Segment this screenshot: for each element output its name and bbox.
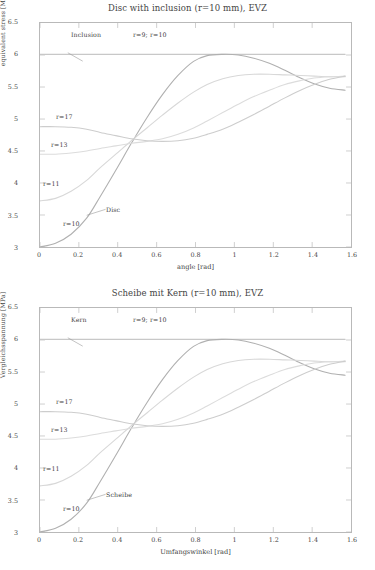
annotation-r10: r=10 bbox=[63, 220, 80, 227]
annotation-r9-r10: r=9; r=10 bbox=[133, 31, 167, 38]
annotation-r11: r=11 bbox=[43, 465, 60, 472]
chart-title: Scheibe mit Kern (r=10 mm), EVZ bbox=[0, 288, 375, 298]
leader-lines bbox=[68, 53, 106, 216]
x-tick-label: 0.6 bbox=[136, 251, 176, 259]
x-tick-label: 1 bbox=[215, 251, 255, 259]
annotation-inclusion: Inclusion bbox=[71, 31, 101, 38]
tick-marks bbox=[40, 23, 351, 247]
tick-marks bbox=[40, 308, 351, 532]
x-tick-label: 1.6 bbox=[332, 536, 372, 544]
x-tick-label: 0.8 bbox=[176, 536, 216, 544]
series-paths bbox=[40, 54, 345, 247]
annotation-r13: r=13 bbox=[51, 426, 68, 433]
x-tick-label: 1.4 bbox=[293, 251, 333, 259]
annotation-body: Disc bbox=[106, 206, 120, 213]
x-tick-label: 1.6 bbox=[332, 251, 372, 259]
curve-r-13 bbox=[40, 361, 345, 439]
y-tick-label: 5.5 bbox=[0, 368, 18, 376]
y-tick-label: 4 bbox=[0, 464, 18, 472]
y-tick-label: 3.5 bbox=[0, 212, 18, 220]
plot-area bbox=[39, 22, 352, 248]
x-tick-label: 0.6 bbox=[136, 536, 176, 544]
x-axis-label: Umfangswinkel [rad] bbox=[39, 548, 352, 556]
figure-scheibe-mit-kern: Scheibe mit Kern (r=10 mm), EVZ Vergleic… bbox=[0, 285, 375, 570]
curves-svg bbox=[40, 308, 351, 532]
x-axis-label: angle [rad] bbox=[39, 263, 352, 271]
x-tick-label: 1.4 bbox=[293, 536, 333, 544]
plot-area bbox=[39, 307, 352, 533]
annotation-body: Scheibe bbox=[106, 491, 132, 498]
curve-r-11 bbox=[40, 74, 345, 201]
y-tick-label: 5 bbox=[0, 115, 18, 123]
curves-svg bbox=[40, 23, 351, 247]
y-tick-label: 6 bbox=[0, 335, 18, 343]
x-tick-label: 1 bbox=[215, 536, 255, 544]
x-tick-label: 0 bbox=[19, 251, 59, 259]
x-tick-label: 1.2 bbox=[254, 251, 294, 259]
x-tick-label: 1.2 bbox=[254, 536, 294, 544]
curve-r-17 bbox=[40, 76, 345, 141]
y-tick-label: 5.5 bbox=[0, 83, 18, 91]
y-tick-label: 6 bbox=[0, 50, 18, 58]
x-tick-label: 0.2 bbox=[58, 536, 98, 544]
annotation-r9-r10: r=9; r=10 bbox=[133, 316, 167, 323]
x-tick-label: 0.2 bbox=[58, 251, 98, 259]
y-tick-label: 3 bbox=[0, 244, 18, 252]
y-tick-label: 4.5 bbox=[0, 432, 18, 440]
series-paths bbox=[40, 339, 345, 532]
x-tick-label: 0.4 bbox=[97, 251, 137, 259]
y-tick-label: 3.5 bbox=[0, 497, 18, 505]
curve-r-11 bbox=[40, 359, 345, 486]
y-tick-label: 4 bbox=[0, 179, 18, 187]
annotation-r13: r=13 bbox=[51, 141, 68, 148]
annotation-inclusion: Kern bbox=[71, 316, 87, 323]
y-tick-label: 6.5 bbox=[0, 18, 18, 26]
chart-title: Disc with inclusion (r=10 mm), EVZ bbox=[0, 3, 375, 13]
figure-disc-with-inclusion: Disc with inclusion (r=10 mm), EVZ equiv… bbox=[0, 0, 375, 285]
curve-r-13 bbox=[40, 76, 345, 154]
annotation-r17: r=17 bbox=[56, 113, 73, 120]
y-axis-label: equivalent stress [MPa] bbox=[0, 0, 6, 88]
x-tick-label: 0 bbox=[19, 536, 59, 544]
curve-r-17 bbox=[40, 361, 345, 426]
annotation-r17: r=17 bbox=[56, 398, 73, 405]
annotation-r11: r=11 bbox=[43, 180, 60, 187]
y-tick-label: 6.5 bbox=[0, 303, 18, 311]
leader-lines bbox=[68, 338, 106, 501]
annotation-r10: r=10 bbox=[63, 505, 80, 512]
y-tick-label: 4.5 bbox=[0, 147, 18, 155]
y-tick-label: 5 bbox=[0, 400, 18, 408]
x-tick-label: 0.8 bbox=[176, 251, 216, 259]
y-tick-label: 3 bbox=[0, 529, 18, 537]
x-tick-label: 0.4 bbox=[97, 536, 137, 544]
